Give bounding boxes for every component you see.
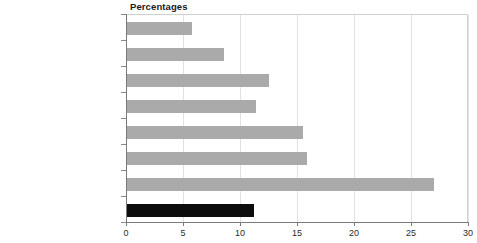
bar-row — [126, 119, 467, 145]
x-axis-tick-label: 15 — [292, 228, 302, 238]
chart-title: Percentages — [130, 1, 188, 12]
bar-row — [126, 145, 467, 171]
category-tick — [121, 196, 126, 197]
x-axis-tick-label: 25 — [406, 228, 416, 238]
category-tick — [121, 92, 126, 93]
x-axis-tick — [354, 222, 355, 226]
category-tick — [121, 144, 126, 145]
bar-row — [126, 41, 467, 67]
bar — [126, 74, 269, 87]
percentages-bar-chart: Percentages ProfessionalManagerial and t… — [0, 0, 477, 243]
x-axis-tick — [468, 222, 469, 226]
bar-row — [126, 93, 467, 119]
category-tick — [121, 14, 126, 15]
y-axis-line — [126, 14, 127, 222]
bar — [126, 22, 192, 35]
x-axis-tick-label: 20 — [349, 228, 359, 238]
x-axis-tick-label: 30 — [463, 228, 473, 238]
bar — [126, 152, 307, 165]
bar-row — [126, 171, 467, 197]
plot-area — [126, 14, 468, 222]
bar-row — [126, 197, 467, 223]
x-axis-tick-label: 0 — [123, 228, 128, 238]
category-tick — [121, 170, 126, 171]
gridline — [468, 15, 469, 222]
bar — [126, 204, 254, 217]
x-axis-tick — [240, 222, 241, 226]
bar — [126, 178, 434, 191]
x-axis-tick — [411, 222, 412, 226]
bar-row — [126, 67, 467, 93]
bar-row — [126, 15, 467, 41]
x-axis-tick-label: 10 — [235, 228, 245, 238]
bar — [126, 48, 224, 61]
category-tick — [121, 118, 126, 119]
x-axis-tick — [126, 222, 127, 226]
bar — [126, 100, 256, 113]
bar — [126, 126, 303, 139]
x-axis-tick — [297, 222, 298, 226]
category-tick — [121, 66, 126, 67]
category-tick — [121, 40, 126, 41]
x-axis-tick-label: 5 — [180, 228, 185, 238]
x-axis-tick — [183, 222, 184, 226]
